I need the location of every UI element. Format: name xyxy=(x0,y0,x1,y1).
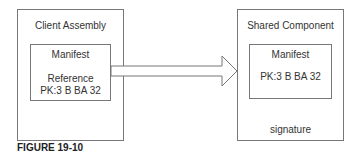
signature-label: signature xyxy=(237,124,344,135)
shared-manifest-title: Manifest xyxy=(249,49,332,60)
figure-caption: FIGURE 19-10 xyxy=(17,142,83,153)
shared-component-title: Shared Component xyxy=(237,20,344,31)
shared-public-key-token: PK:3 B BA 32 xyxy=(249,71,332,82)
